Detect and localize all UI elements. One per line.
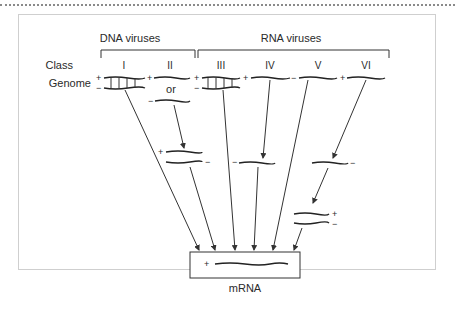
arrow-class-4-to-mrna (254, 167, 258, 250)
class-2-intermediate-dsdna: + − (158, 147, 210, 167)
group-label-dna: DNA viruses (100, 32, 161, 44)
class-row-label: Class (45, 59, 73, 71)
group-label-rna: RNA viruses (261, 32, 322, 44)
arrow-class-1-to-mrna (125, 90, 199, 250)
class-6-intermediate-double-strand: + − (294, 209, 337, 229)
svg-text:+: + (194, 73, 199, 83)
svg-text:−: − (232, 157, 237, 167)
class-numeral-2: II (167, 60, 173, 71)
class-numeral-1: I (123, 60, 126, 71)
svg-text:+: + (158, 147, 163, 157)
rna-bracket (198, 50, 389, 58)
dna-bracket (101, 50, 195, 58)
mrna-label: mRNA (229, 282, 262, 294)
svg-text:−: − (291, 73, 296, 83)
class-2-ssdna-genome: + or − (147, 73, 190, 106)
svg-text:+: + (332, 209, 337, 219)
class-1-dsdna-genome: + − (96, 73, 145, 93)
class-5-ssrna-minus-genome: − (291, 73, 337, 83)
svg-text:−: − (96, 83, 101, 93)
svg-text:+: + (243, 73, 248, 83)
arrow-class-6-to-mrna (294, 228, 302, 250)
arrow-class-2-to-dsdna (174, 105, 184, 148)
arrow-class-3-to-mrna (223, 90, 235, 250)
arrow-class-6-to-double (313, 168, 328, 203)
class-6-ssrna-rt-genome: + (340, 73, 385, 83)
baltimore-classification-diagram: DNA viruses RNA viruses Class Genome I I… (0, 0, 455, 317)
mrna-sign: + (204, 259, 209, 269)
class-4-intermediate-minus-strand: − (232, 157, 275, 167)
genome-row-label: Genome (49, 77, 91, 89)
or-connector: or (166, 83, 176, 95)
class-numeral-3: III (217, 60, 225, 71)
svg-text:+: + (96, 73, 101, 83)
svg-text:−: − (194, 83, 199, 93)
arrow-class-6-to-single (333, 80, 366, 158)
svg-text:−: − (332, 219, 337, 229)
svg-text:+: + (147, 73, 152, 83)
class-3-dsrna-genome: + − (194, 73, 240, 93)
class-numeral-5: V (315, 60, 322, 71)
svg-text:−: − (350, 158, 355, 168)
class-numeral-6: VI (361, 60, 370, 71)
svg-text:+: + (340, 73, 345, 83)
class-6-intermediate-single-strand: − (312, 158, 355, 168)
class-numeral-4: IV (265, 60, 275, 71)
svg-text:−: − (205, 157, 210, 167)
svg-text:−: − (148, 96, 153, 106)
arrow-class-4-to-minus (263, 80, 270, 158)
class-4-ssrna-plus-genome: + (243, 73, 290, 83)
